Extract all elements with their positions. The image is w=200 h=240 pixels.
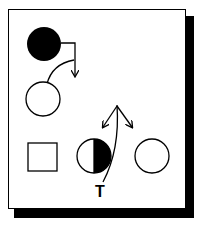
half-circle-fill — [94, 139, 111, 173]
t-label: T — [95, 183, 105, 201]
filled-circle-node — [27, 27, 61, 61]
empty-circle-top-node — [26, 82, 60, 116]
curve-line — [47, 60, 74, 84]
empty-circle-right-node — [135, 139, 169, 173]
fork-arrow-right — [117, 106, 132, 127]
square-node — [28, 143, 57, 171]
fork-arrow-left — [103, 106, 117, 127]
elbow-arrow — [61, 43, 75, 76]
